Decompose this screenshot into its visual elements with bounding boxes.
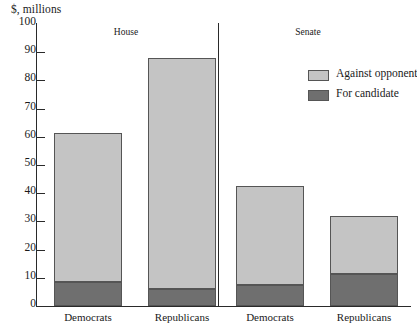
y-tick-label: 30	[12, 212, 36, 224]
stacked-bar-chart: $, millions 100 90 80 70 60 50 40 30 20 …	[0, 0, 417, 335]
y-tick-mark	[37, 80, 45, 81]
bar-senate-republicans	[330, 216, 398, 306]
legend-swatch-against-opponent	[308, 70, 329, 81]
x-label-house-republicans: Republicans	[148, 311, 216, 323]
x-label-senate-democrats: Democrats	[236, 311, 304, 323]
y-tick-label: 70	[12, 100, 36, 112]
bar-segment-against-opponent	[54, 133, 122, 283]
y-tick-mark	[37, 250, 45, 251]
x-label-house-democrats: Democrats	[54, 311, 122, 323]
y-tick-mark	[37, 193, 45, 194]
bar-segment-against-opponent	[236, 186, 304, 285]
bar-house-republicans	[148, 58, 216, 306]
y-tick-label: 40	[12, 184, 36, 196]
y-tick-label: 10	[12, 269, 36, 281]
y-tick-label: 80	[12, 71, 36, 83]
y-tick-mark	[37, 165, 45, 166]
y-tick-mark	[37, 137, 45, 138]
y-tick-mark	[37, 109, 45, 110]
x-label-senate-republicans: Republicans	[330, 311, 398, 323]
legend-label: For candidate	[336, 87, 399, 99]
bar-segment-against-opponent	[330, 216, 398, 274]
y-tick-mark	[37, 278, 45, 279]
y-tick-label: 50	[12, 156, 36, 168]
bar-segment-for-candidate	[330, 274, 398, 306]
y-tick-label: 100	[12, 15, 36, 27]
y-axis-title: $, millions	[11, 3, 61, 15]
legend-swatch-for-candidate	[308, 90, 329, 101]
bar-senate-democrats	[236, 186, 304, 306]
y-tick-label: 0	[12, 297, 36, 309]
panel-heading-house: House	[96, 27, 156, 37]
bar-segment-against-opponent	[148, 58, 216, 289]
y-tick-label: 20	[12, 241, 36, 253]
bar-segment-for-candidate	[236, 285, 304, 306]
y-tick-label: 90	[12, 43, 36, 55]
panel-divider	[218, 23, 219, 307]
bar-segment-for-candidate	[54, 282, 122, 306]
bar-house-democrats	[54, 133, 122, 306]
bar-segment-for-candidate	[148, 289, 216, 306]
panel-heading-senate: Senate	[278, 27, 338, 37]
y-tick-mark	[37, 221, 45, 222]
y-tick-mark	[37, 52, 45, 53]
legend-label: Against opponent	[336, 67, 417, 79]
y-tick-label: 60	[12, 128, 36, 140]
